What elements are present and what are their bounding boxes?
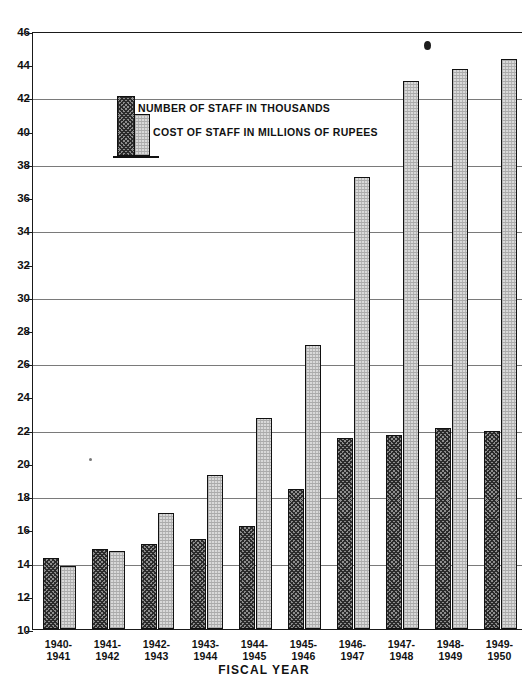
y-axis-tick (26, 232, 33, 233)
x-axis-label: 1949-1950 (486, 638, 513, 662)
y-axis-label: 14 (0, 558, 30, 570)
y-axis-tick (26, 166, 33, 167)
y-axis-label: 26 (0, 358, 30, 370)
y-axis-label: 16 (0, 524, 30, 536)
y-axis-tick (26, 332, 33, 333)
chart-legend: NUMBER OF STAFF IN THOUSANDS COST OF STA… (117, 96, 417, 172)
y-axis-tick (26, 498, 33, 499)
x-axis-label: 1943-1944 (192, 638, 219, 662)
y-axis-label: 38 (0, 159, 30, 171)
bar-cost (501, 59, 517, 629)
bar-group (484, 31, 517, 629)
y-axis-label: 46 (0, 26, 30, 38)
legend-label-staff: NUMBER OF STAFF IN THOUSANDS (138, 102, 330, 114)
legend-label-cost: COST OF STAFF IN MILLIONS OF RUPEES (153, 126, 378, 138)
y-axis-label: 20 (0, 458, 30, 470)
bar-staff (484, 431, 500, 629)
y-axis-label: 30 (0, 292, 30, 304)
y-axis-tick (26, 33, 33, 34)
y-axis-tick (26, 598, 33, 599)
x-axis-label: 1945-1946 (290, 638, 317, 662)
x-axis-label: 1947-1948 (388, 638, 415, 662)
x-axis-label: 1942-1943 (143, 638, 170, 662)
y-axis-label: 24 (0, 391, 30, 403)
x-axis-label: 1948-1949 (437, 638, 464, 662)
bar-staff (386, 435, 402, 629)
y-axis-tick (26, 531, 33, 532)
bar-group (43, 31, 76, 629)
y-axis-label: 28 (0, 325, 30, 337)
y-axis-tick (26, 565, 33, 566)
bar-cost (354, 177, 370, 629)
bar-cost (207, 475, 223, 629)
y-axis-label: 40 (0, 126, 30, 138)
legend-swatch-cost (134, 114, 150, 156)
bar-staff (190, 539, 206, 629)
y-axis-label: 44 (0, 59, 30, 71)
bar-staff (337, 438, 353, 629)
bar-staff (43, 558, 59, 629)
y-axis-tick (26, 199, 33, 200)
y-axis-tick (26, 133, 33, 134)
bar-cost (305, 345, 321, 629)
y-axis-labels: 10121416182022242628303234363840424446 (0, 32, 34, 630)
y-axis-tick (26, 66, 33, 67)
legend-swatch-staff (117, 96, 135, 156)
bar-staff (288, 489, 304, 629)
bar-group (435, 31, 468, 629)
bar-staff (435, 428, 451, 629)
ink-speck-upper (424, 41, 431, 50)
x-axis-title: FISCAL YEAR (0, 663, 522, 677)
bar-staff (92, 549, 108, 629)
x-axis-label: 1940-1941 (45, 638, 72, 662)
x-axis-title-text: FISCAL YEAR (218, 663, 310, 677)
y-axis-label: 22 (0, 425, 30, 437)
bar-staff (141, 544, 157, 629)
bar-cost (109, 551, 125, 629)
y-axis-label: 34 (0, 225, 30, 237)
y-axis-label: 18 (0, 491, 30, 503)
legend-baseline (113, 156, 159, 158)
y-axis-label: 32 (0, 259, 30, 271)
bar-cost (158, 513, 174, 629)
y-axis-label: 10 (0, 624, 30, 636)
x-axis-label: 1944-1945 (241, 638, 268, 662)
y-axis-tick (26, 299, 33, 300)
bar-staff (239, 526, 255, 629)
bar-chart: 10121416182022242628303234363840424446 N… (0, 0, 522, 691)
y-axis-tick (26, 465, 33, 466)
bar-cost (60, 566, 76, 629)
ink-speck-lower (89, 458, 92, 461)
x-axis-label: 1941-1942 (94, 638, 121, 662)
plot-area: NUMBER OF STAFF IN THOUSANDS COST OF STA… (32, 32, 522, 630)
y-axis-label: 12 (0, 591, 30, 603)
y-axis-label: 36 (0, 192, 30, 204)
y-axis-label: 42 (0, 92, 30, 104)
y-axis-tick (26, 365, 33, 366)
bar-cost (452, 69, 468, 629)
y-axis-tick (26, 266, 33, 267)
y-axis-tick (26, 99, 33, 100)
y-axis-tick (26, 398, 33, 399)
x-axis-label: 1946-1947 (339, 638, 366, 662)
bar-cost (256, 418, 272, 629)
y-axis-tick (26, 432, 33, 433)
y-axis-tick (26, 631, 33, 632)
